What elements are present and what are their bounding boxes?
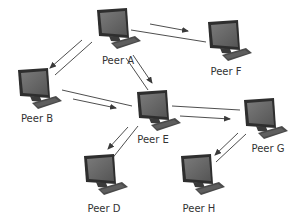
computer-icon: [244, 98, 288, 139]
computer-icon: [208, 20, 252, 61]
peer-d-node: [84, 154, 128, 195]
edge-e-g: [172, 106, 240, 119]
peer-f-node: [208, 20, 252, 61]
network-diagram: [0, 0, 299, 222]
peer-h-label: Peer H: [183, 203, 216, 214]
peer-a-node: [97, 8, 141, 49]
edge-a-f: [131, 24, 206, 42]
edge-a-b: [50, 40, 92, 75]
peer-g-label: Peer G: [251, 143, 284, 154]
edge-g-h: [215, 133, 246, 162]
peer-b-label: Peer B: [21, 113, 53, 124]
peer-a-label: Peer A: [102, 55, 134, 66]
peer-f-label: Peer F: [210, 66, 241, 77]
computer-icon: [84, 154, 128, 195]
peer-e-node: [137, 90, 181, 131]
edge-b-e: [62, 90, 132, 108]
peer-e-label: Peer E: [137, 134, 169, 145]
peer-g-node: [244, 98, 288, 139]
computer-icon: [97, 8, 141, 49]
peer-d-label: Peer D: [88, 203, 121, 214]
computer-icon: [137, 90, 181, 131]
